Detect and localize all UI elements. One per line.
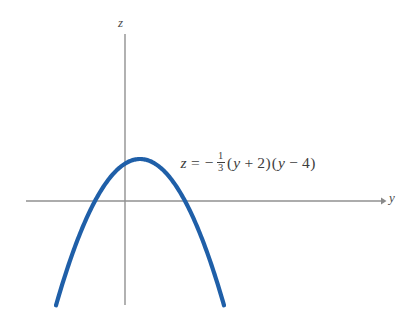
factor-two-variable: y xyxy=(277,155,285,171)
equation-annotation: z = − 1 3 ( y + 2 ) ( y − 4 ) xyxy=(180,151,316,175)
fraction-numerator: 1 xyxy=(217,151,224,162)
factor-two-close-paren: ) xyxy=(310,155,316,171)
factor-two-constant: 4 xyxy=(302,155,310,171)
factor-one-variable: y xyxy=(233,155,241,171)
factor-one-constant: 2 xyxy=(257,155,265,171)
vertical-axis-label: z xyxy=(118,16,123,29)
fraction-denominator: 3 xyxy=(217,163,224,174)
equation-fraction: 1 3 xyxy=(217,151,225,175)
factor-one-operator: + xyxy=(241,155,258,171)
factor-two-operator: − xyxy=(285,155,302,171)
equation-leading-minus: − xyxy=(204,155,216,171)
horizontal-axis-arrowhead xyxy=(381,198,387,205)
horizontal-axis-label: y xyxy=(389,191,395,204)
figure-canvas: z y z = − 1 3 ( y + 2 ) ( y − 4 ) xyxy=(0,0,413,317)
equation-equals-sign: = xyxy=(187,155,204,171)
equation-lhs-variable: z xyxy=(180,155,187,171)
parabola-curve xyxy=(56,159,224,305)
